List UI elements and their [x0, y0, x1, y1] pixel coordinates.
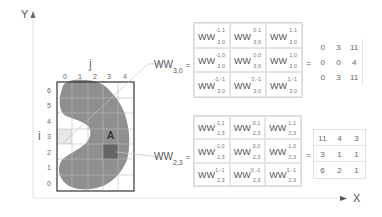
result-cell: 0 — [315, 39, 331, 54]
result-cell: 11 — [314, 130, 331, 146]
result-cell: 3 — [331, 39, 347, 54]
matrix-cell: WW0,-12,3 — [230, 163, 266, 186]
col-tick: 3 — [107, 73, 111, 80]
result-cell: 6 — [314, 162, 331, 178]
result-cell: 0 — [331, 54, 347, 69]
row-tick: 1 — [47, 164, 51, 171]
col-tick: 2 — [93, 73, 97, 80]
result-cell: 0 — [315, 54, 331, 69]
col-tick: 1 — [78, 73, 82, 80]
matrix-cell: WW0,-13,0 — [230, 72, 266, 97]
matrix-cell: WW-1,03,0 — [194, 48, 230, 73]
cell-2-3-highlight — [103, 144, 118, 159]
matrix-cell: WW1,03,0 — [266, 48, 302, 73]
x-axis-arrow-icon — [340, 196, 347, 201]
y-axis-arrow-icon — [31, 11, 36, 18]
result-cell: 1 — [331, 146, 348, 162]
result-matrix-3-0: 0 3 11 0 0 4 0 3 11 — [315, 39, 363, 84]
col-tick: 4 — [123, 73, 127, 80]
region-label: A — [107, 131, 114, 141]
matrix-cell: WW-1,13,0 — [194, 23, 230, 48]
matrix-cell: WW-1,-13,0 — [194, 72, 230, 97]
matrix-cell: WW0,03,0 — [230, 48, 266, 73]
y-axis-label: Y — [21, 9, 28, 20]
result-cell: 11 — [346, 39, 362, 54]
row-tick: 4 — [47, 118, 51, 125]
result-cell: 0 — [315, 69, 331, 84]
matrix-cell: WW1,02,3 — [265, 139, 301, 162]
window-label-2-3: WW2,3 = — [154, 152, 190, 164]
window-matrix-3-0: WW-1,13,0 WW0,13,0 WW1,13,0 WW-1,03,0 WW… — [193, 22, 303, 98]
matrix-cell: WW1,-12,3 — [265, 163, 301, 186]
window-matrix-2-3: WW-1,12,3 WW0,12,3 WW1,12,3 WW-1,02,3 WW… — [193, 115, 302, 187]
result-cell: 4 — [331, 130, 348, 146]
row-axis-label: i — [38, 130, 41, 142]
row-tick: 2 — [47, 149, 51, 156]
row-tick: 0 — [47, 180, 51, 187]
col-tick: 0 — [63, 73, 67, 80]
x-axis-label: X — [353, 193, 360, 204]
matrix-cell: WW-1,12,3 — [194, 116, 230, 139]
result-cell: 1 — [348, 146, 365, 162]
matrix-cell: WW0,02,3 — [230, 139, 266, 162]
result-cell: 3 — [314, 146, 331, 162]
result-cell: 2 — [331, 162, 348, 178]
row-tick: 3 — [47, 133, 51, 140]
result-cell: 4 — [346, 54, 362, 69]
matrix-cell: WW0,12,3 — [230, 116, 266, 139]
matrix-cell: WW-1,-12,3 — [194, 163, 230, 186]
result-matrix-2-3: 11 4 3 3 1 1 6 2 1 — [313, 129, 366, 179]
matrix-cell: WW-1,02,3 — [194, 139, 230, 162]
col-axis-label: j — [89, 58, 92, 70]
row-tick: 6 — [47, 87, 51, 94]
row-tick: 5 — [47, 102, 51, 109]
result-cell: 1 — [348, 162, 365, 178]
window-label-3-0: WW3,0 = — [154, 60, 190, 72]
matrix-cell: WW1,13,0 — [266, 23, 302, 48]
result-cell: 11 — [346, 69, 362, 84]
equals-sign: = — [306, 58, 311, 68]
matrix-cell: WW1,12,3 — [265, 116, 301, 139]
result-cell: 3 — [331, 69, 347, 84]
equals-sign: = — [306, 150, 311, 160]
diagram-canvas — [0, 0, 382, 217]
matrix-cell: WW1,-13,0 — [266, 72, 302, 97]
result-cell: 3 — [348, 130, 365, 146]
matrix-cell: WW0,13,0 — [230, 23, 266, 48]
